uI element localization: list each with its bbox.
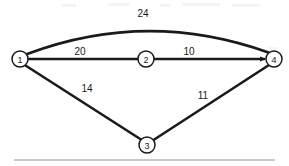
edge-1-2-weight: 20	[74, 46, 86, 57]
edge-3-4-line	[154, 65, 270, 140]
node-1[interactable]: 1	[12, 51, 28, 67]
weighted-graph-diagram: 1 2 3 4 24 20 10 14 11	[0, 0, 289, 166]
node-3[interactable]: 3	[139, 137, 155, 153]
edge-3-4-weight: 11	[198, 90, 209, 101]
node-1-label: 1	[17, 55, 22, 65]
node-3-label: 3	[144, 141, 149, 151]
graph-edges	[26, 31, 270, 140]
edge-1-3-line	[26, 66, 142, 140]
edge-1-3-weight: 14	[81, 83, 93, 94]
node-2[interactable]: 2	[138, 51, 154, 67]
node-2-label: 2	[143, 55, 148, 65]
graph-nodes: 1 2 3 4	[12, 51, 282, 153]
arrowhead-into-node-4	[260, 56, 266, 61]
edge-2-4-weight: 10	[183, 46, 195, 57]
edge-1-4-weight: 24	[137, 8, 149, 19]
node-4-label: 4	[271, 55, 276, 65]
node-4[interactable]: 4	[266, 51, 282, 67]
